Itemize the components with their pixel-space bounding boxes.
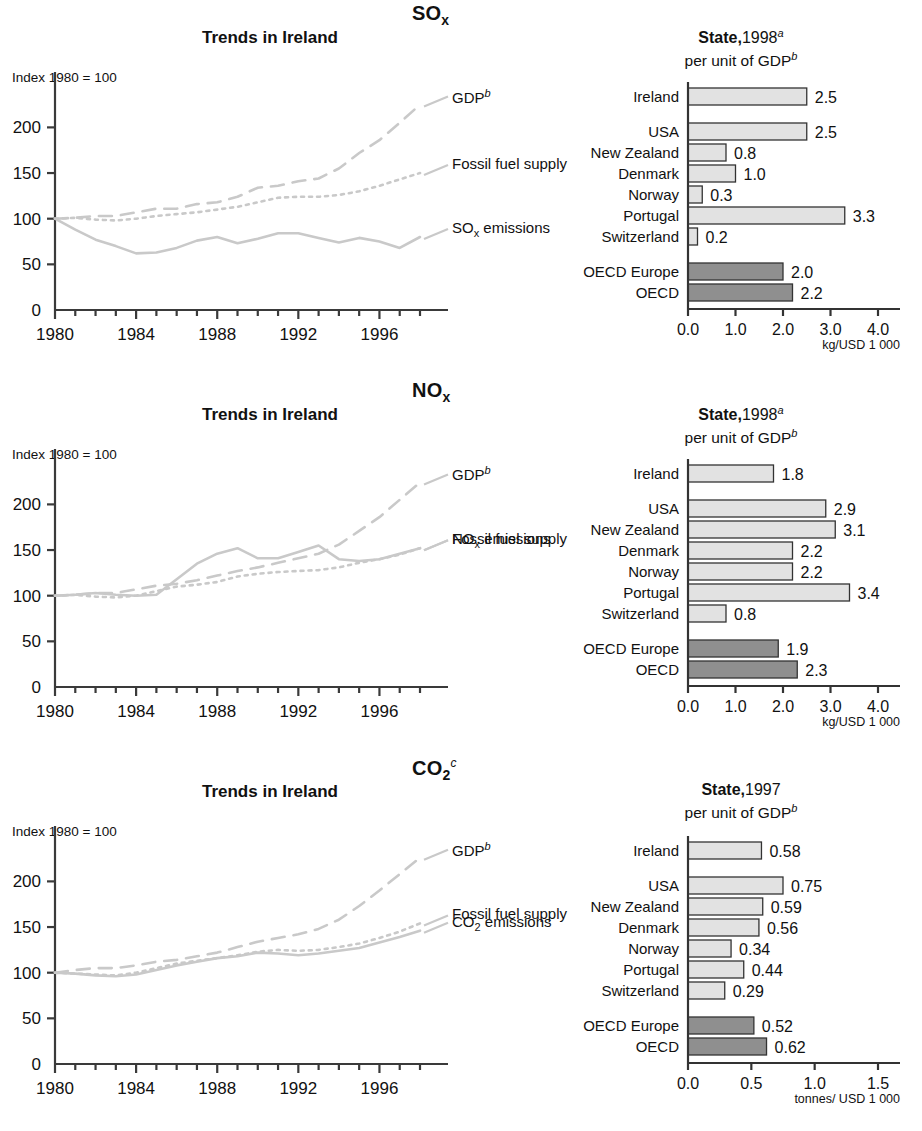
bar-value-label: 0.8 (734, 145, 756, 162)
trends-plot: 05010015020019801984198819921996 (0, 377, 560, 754)
bar (688, 88, 807, 105)
x-axis-tick-label: 1988 (198, 325, 236, 344)
bar-chart: State,1998aper unit of GDPbIreland1.8USA… (560, 377, 922, 754)
bar (688, 123, 807, 140)
bar-value-label: 0.75 (791, 878, 822, 895)
bar-value-label: 1.0 (744, 166, 766, 183)
bar-category-label: Denmark (618, 919, 679, 936)
bar (688, 584, 850, 601)
x-axis-tick-label: 1984 (117, 702, 155, 721)
x-axis-tick-label: 1988 (198, 702, 236, 721)
series-label: SOx emissions (452, 219, 550, 239)
bar-value-label: 3.1 (843, 522, 865, 539)
bar-axis-tick-label: 2.0 (772, 698, 794, 715)
y-axis-tick-label: 0 (32, 678, 41, 697)
bar-category-label: Portugal (623, 584, 679, 601)
bar (688, 165, 736, 182)
x-axis-tick-label: 1984 (117, 1079, 155, 1098)
bar (688, 842, 761, 859)
bar-category-label: Ireland (633, 842, 679, 859)
bar (688, 186, 702, 203)
bar (688, 500, 826, 517)
bar-value-label: 1.8 (782, 466, 804, 483)
y-axis-tick-label: 150 (13, 541, 41, 560)
bar-value-label: 2.3 (805, 662, 827, 679)
bar-category-label: Denmark (618, 542, 679, 559)
bar-category-label: New Zealand (591, 144, 679, 161)
bar-axis-tick-label: 3.0 (819, 698, 841, 715)
bar-axis-tick-label: 0.5 (740, 1075, 762, 1092)
bar (688, 263, 783, 280)
bar-category-label: Switzerland (601, 605, 679, 622)
y-axis-tick-label: 50 (22, 1009, 41, 1028)
bar-value-label: 1.9 (786, 641, 808, 658)
bar-axis-tick-label: 1.0 (804, 1075, 826, 1092)
bar-value-label: 2.2 (801, 564, 823, 581)
trends-chart: Trends in IrelandIndex 1980 = 1000501001… (0, 377, 560, 754)
bar (688, 521, 835, 538)
y-axis-tick-label: 100 (13, 964, 41, 983)
bar (688, 207, 845, 224)
bar-category-label: USA (648, 500, 679, 517)
bar (688, 228, 698, 245)
bar-axis-unit-label: kg/USD 1 000 (822, 715, 900, 729)
bar-category-label: OECD (636, 661, 680, 678)
y-axis-tick-label: 200 (13, 118, 41, 137)
trend-line-dashed (55, 105, 420, 219)
bar-category-label: Portugal (623, 207, 679, 224)
y-axis-tick-label: 0 (32, 301, 41, 320)
bar-plot: Ireland1.8USA2.9New Zealand3.1Denmark2.2… (560, 377, 922, 754)
x-axis-tick-label: 1996 (361, 702, 399, 721)
bar-category-label: New Zealand (591, 898, 679, 915)
y-axis-tick-label: 50 (22, 255, 41, 274)
series-label: GDPb (452, 464, 491, 483)
bar-axis-tick-label: 0.0 (677, 698, 699, 715)
bar-value-label: 0.44 (752, 962, 783, 979)
bar-category-label: Ireland (633, 88, 679, 105)
bar-axis-tick-label: 0.0 (677, 321, 699, 338)
trend-line-solid (55, 931, 420, 977)
bar-category-label: New Zealand (591, 521, 679, 538)
bar-category-label: OECD Europe (583, 1017, 679, 1034)
bar (688, 465, 774, 482)
bar (688, 284, 793, 301)
series-label: Fossil fuel supply (452, 155, 567, 172)
trend-line-dashed (55, 483, 420, 596)
bar-category-label: Norway (628, 940, 679, 957)
x-axis-tick-label: 1992 (279, 702, 317, 721)
bar-value-label: 2.2 (801, 543, 823, 560)
series-label: GDPb (452, 840, 491, 859)
y-axis-tick-label: 50 (22, 632, 41, 651)
bar-category-label: Portugal (623, 961, 679, 978)
x-axis-tick-label: 1980 (36, 702, 74, 721)
series-label: CO2 emissions (452, 913, 551, 933)
trend-line-dotted (55, 548, 420, 597)
bar-axis-tick-label: 0.0 (677, 1075, 699, 1092)
bar-value-label: 0.59 (771, 899, 802, 916)
pollutant-panel: SOxTrends in IrelandIndex 1980 = 1000501… (0, 0, 922, 377)
bar (688, 919, 759, 936)
bar-axis-unit-label: kg/USD 1 000 (822, 338, 900, 352)
bar (688, 877, 783, 894)
x-axis-tick-label: 1988 (198, 1079, 236, 1098)
x-axis-tick-label: 1984 (117, 325, 155, 344)
bar-category-label: Denmark (618, 165, 679, 182)
bar (688, 144, 726, 161)
bar-category-label: Switzerland (601, 982, 679, 999)
y-axis-tick-label: 100 (13, 587, 41, 606)
bar (688, 898, 763, 915)
trend-line-solid (55, 219, 420, 254)
y-axis-tick-label: 0 (32, 1055, 41, 1074)
bar-value-label: 0.58 (769, 843, 800, 860)
series-label: GDPb (452, 87, 491, 106)
x-axis-tick-label: 1980 (36, 325, 74, 344)
bar (688, 982, 725, 999)
bar (688, 605, 726, 622)
bar-plot: Ireland2.5USA2.5New Zealand0.8Denmark1.0… (560, 0, 922, 377)
x-axis-tick-label: 1996 (361, 325, 399, 344)
bar-axis-unit-label: tonnes/ USD 1 000 (794, 1092, 900, 1106)
trends-chart: Trends in IrelandIndex 1980 = 1000501001… (0, 754, 560, 1131)
bar-category-label: OECD Europe (583, 263, 679, 280)
bar-value-label: 2.0 (791, 264, 813, 281)
bar (688, 1017, 754, 1034)
